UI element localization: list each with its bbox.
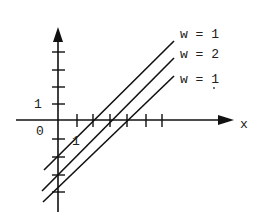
x-unit-label: 1 xyxy=(72,134,80,149)
line-label-1: w = 1 xyxy=(180,27,219,42)
line-w2 xyxy=(42,58,174,191)
line-label-2: w = 2 xyxy=(180,47,219,62)
label-dot xyxy=(213,87,215,89)
plot-svg: w = 1 w = 2 w = 1 x 0 1 1 xyxy=(0,0,261,220)
x-axis xyxy=(16,114,234,127)
diagram-canvas: w = 1 w = 2 w = 1 x 0 1 1 xyxy=(0,0,261,220)
x-axis-arrow-icon xyxy=(218,115,234,125)
line-w1-upper xyxy=(44,41,174,170)
origin-label: 0 xyxy=(36,124,44,139)
x-axis-label: x xyxy=(240,117,248,132)
level-lines xyxy=(42,41,174,202)
y-axis-arrow-icon xyxy=(53,27,63,42)
line-label-3: w = 1 xyxy=(180,72,219,87)
y-unit-label: 1 xyxy=(34,97,42,112)
